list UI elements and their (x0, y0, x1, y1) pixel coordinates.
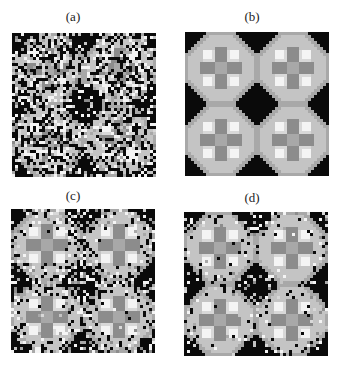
panel-image-a (12, 33, 156, 177)
panel-image-b (185, 32, 329, 176)
panel-label-d: (d) (232, 191, 272, 205)
panel-image-c (11, 209, 155, 353)
panel-label-c: (c) (53, 189, 93, 203)
panel-image-d (184, 212, 328, 356)
panel-label-a: (a) (53, 10, 93, 24)
panel-label-b: (b) (232, 10, 272, 24)
